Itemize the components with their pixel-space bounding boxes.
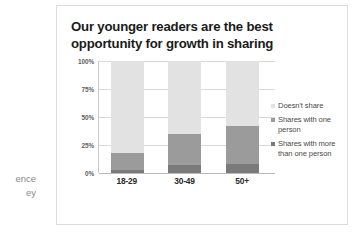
- side-text-line-1: ence: [0, 172, 36, 186]
- bar-column[interactable]: [111, 61, 144, 173]
- slide-card: Our younger readers are the best opportu…: [56, 5, 348, 225]
- y-axis-tick-label: 75%: [82, 86, 95, 93]
- bar-segment[interactable]: [111, 153, 144, 170]
- bar-column[interactable]: [168, 61, 201, 173]
- side-text-line-2: ey: [0, 186, 36, 200]
- page-title: Our younger readers are the best opportu…: [71, 19, 316, 52]
- bar-group: [99, 61, 271, 173]
- legend-swatch-icon: [271, 118, 275, 122]
- x-axis-tick-label: 50+: [226, 176, 259, 186]
- legend-item[interactable]: Doesn't share: [271, 101, 343, 110]
- legend-swatch-icon: [271, 142, 275, 146]
- legend-item[interactable]: Shares with more than one person: [271, 139, 343, 158]
- legend-label: Shares with more than one person: [278, 139, 343, 158]
- legend-item[interactable]: Shares with one person: [271, 115, 343, 134]
- bar-segment[interactable]: [168, 134, 201, 165]
- y-axis-tick-label: 0%: [85, 170, 94, 177]
- axis-baseline: [99, 173, 275, 174]
- chart-legend: Doesn't shareShares with one personShare…: [271, 101, 343, 163]
- legend-swatch-icon: [271, 104, 275, 108]
- x-axis-tick-label: 18-29: [110, 176, 143, 186]
- plot-area: [98, 61, 271, 173]
- x-axis: 18-2930-4950+: [98, 176, 271, 186]
- y-axis: 0%25%50%75%100%: [71, 61, 97, 173]
- x-axis-tick-label: 30-49: [168, 176, 201, 186]
- bar-column[interactable]: [226, 61, 259, 173]
- legend-label: Shares with one person: [278, 115, 343, 134]
- y-axis-tick-label: 25%: [82, 142, 95, 149]
- y-axis-tick-label: 50%: [82, 114, 95, 121]
- bar-segment[interactable]: [226, 164, 259, 173]
- slide-content: Our younger readers are the best opportu…: [57, 6, 347, 224]
- legend-label: Doesn't share: [278, 101, 323, 110]
- page-side-text: ence ey: [0, 172, 36, 200]
- stacked-bar-chart: 0%25%50%75%100% 18-2930-4950+ Doesn't sh…: [71, 61, 335, 211]
- bar-segment[interactable]: [111, 61, 144, 153]
- bar-segment[interactable]: [168, 165, 201, 173]
- bar-segment[interactable]: [111, 170, 144, 173]
- bar-segment[interactable]: [226, 61, 259, 126]
- chart-plot-wrap: 0%25%50%75%100% 18-2930-4950+: [71, 61, 271, 191]
- y-axis-tick-label: 100%: [78, 58, 94, 65]
- bar-segment[interactable]: [168, 61, 201, 134]
- bar-segment[interactable]: [226, 126, 259, 164]
